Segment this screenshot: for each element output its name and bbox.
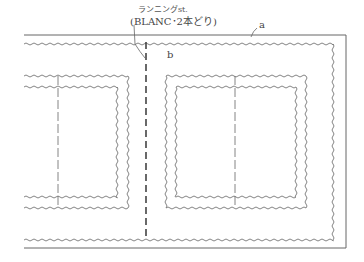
running-stitch-detail: (BLANC･2本どり) — [130, 13, 217, 28]
label-a-leader — [251, 28, 257, 37]
label-a: a — [259, 19, 265, 30]
running-stitch-leader — [134, 25, 145, 58]
label-b: b — [167, 49, 173, 60]
left-frame — [24, 75, 129, 209]
right-frame — [165, 75, 307, 209]
outer-border — [24, 35, 346, 248]
outer-wavy-frame — [24, 43, 334, 241]
diagram-canvas — [0, 0, 364, 262]
